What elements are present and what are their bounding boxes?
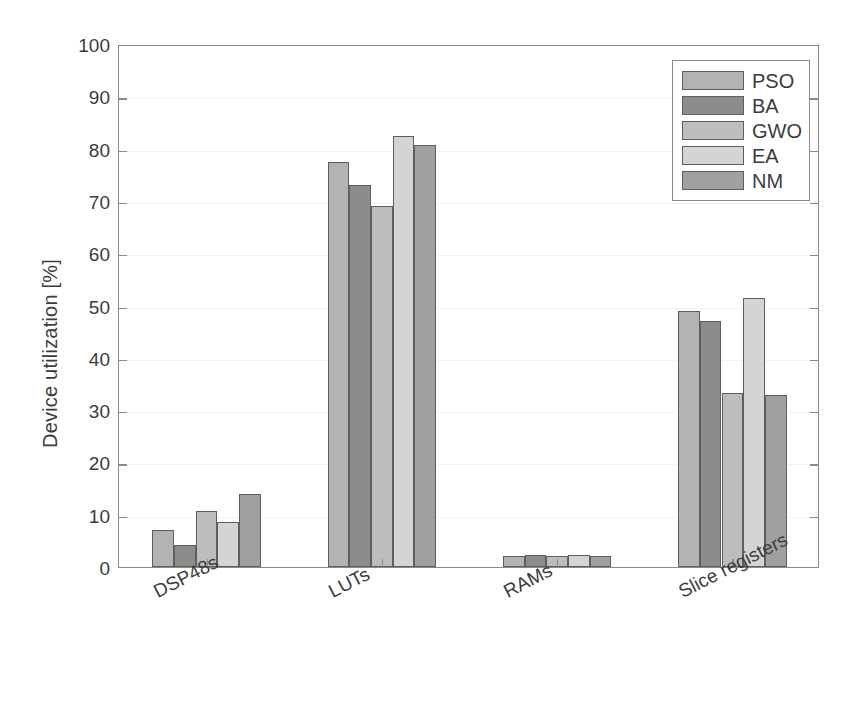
y-axis-tick	[810, 517, 818, 518]
bar-ea-slice-registers	[743, 298, 765, 567]
y-axis-tick	[119, 464, 127, 465]
y-axis-tick	[119, 98, 127, 99]
legend-swatch-ba	[682, 96, 744, 115]
bar-nm-luts	[414, 145, 436, 567]
y-axis-tick	[810, 360, 818, 361]
legend-swatch-gwo	[682, 121, 744, 140]
y-axis-tick-label: 80	[89, 140, 110, 162]
x-axis-tick	[382, 559, 383, 567]
y-axis-tick-label: 30	[89, 401, 110, 423]
y-axis-tick	[119, 360, 127, 361]
bar-pso-luts	[328, 162, 350, 567]
y-axis-tick	[119, 517, 127, 518]
y-axis-tick	[119, 255, 127, 256]
bar-ea-luts	[393, 136, 415, 567]
bar-chart-figure: Device utilization [%] 01020304050607080…	[0, 0, 864, 707]
y-axis-tick	[810, 98, 818, 99]
y-axis-tick-label: 0	[99, 558, 110, 580]
bar-ea-rams	[568, 555, 590, 567]
bar-nm-rams	[590, 556, 612, 567]
legend-item-nm: NM	[682, 168, 800, 193]
y-axis-tick	[119, 151, 127, 152]
y-axis-tick	[119, 308, 127, 309]
legend-item-pso: PSO	[682, 68, 800, 93]
legend-label-gwo: GWO	[752, 121, 802, 141]
legend-label-ea: EA	[752, 146, 779, 166]
chart-legend: PSOBAGWOEANM	[672, 60, 810, 201]
legend-item-ba: BA	[682, 93, 800, 118]
y-axis-tick	[810, 203, 818, 204]
legend-label-pso: PSO	[752, 71, 794, 91]
bar-ea-dsp48s	[217, 522, 239, 568]
y-axis-tick	[119, 412, 127, 413]
bar-gwo-slice-registers	[722, 393, 744, 567]
legend-swatch-nm	[682, 171, 744, 190]
bar-nm-dsp48s	[239, 494, 261, 567]
legend-item-gwo: GWO	[682, 118, 800, 143]
y-axis-tick	[119, 203, 127, 204]
y-axis-tick-label: 70	[89, 192, 110, 214]
bar-pso-slice-registers	[678, 311, 700, 567]
y-axis-tick-label: 40	[89, 349, 110, 371]
gridline	[119, 203, 818, 204]
y-axis-tick-label: 20	[89, 453, 110, 475]
bar-gwo-luts	[371, 206, 393, 567]
x-axis-tick	[557, 559, 558, 567]
legend-item-ea: EA	[682, 143, 800, 168]
y-axis-tick	[810, 464, 818, 465]
x-axis-category-label: LUTs	[325, 563, 374, 602]
y-axis-tick-label: 60	[89, 244, 110, 266]
bar-ba-slice-registers	[700, 321, 722, 567]
y-axis-tick	[810, 255, 818, 256]
y-axis-tick	[810, 151, 818, 152]
legend-label-ba: BA	[752, 96, 779, 116]
gridline	[119, 308, 818, 309]
bar-ba-luts	[349, 185, 371, 567]
y-axis-tick-label: 50	[89, 297, 110, 319]
y-axis-tick	[810, 412, 818, 413]
legend-swatch-pso	[682, 71, 744, 90]
bar-pso-rams	[503, 556, 525, 568]
y-axis-tick-label: 100	[78, 35, 110, 57]
legend-label-nm: NM	[752, 171, 783, 191]
y-axis-title: Device utilization [%]	[30, 0, 70, 707]
gridline	[119, 255, 818, 256]
bar-pso-dsp48s	[152, 530, 174, 567]
y-axis-tick-label: 90	[89, 87, 110, 109]
y-axis-tick	[810, 308, 818, 309]
legend-swatch-ea	[682, 146, 744, 165]
y-axis-tick-label: 10	[89, 506, 110, 528]
